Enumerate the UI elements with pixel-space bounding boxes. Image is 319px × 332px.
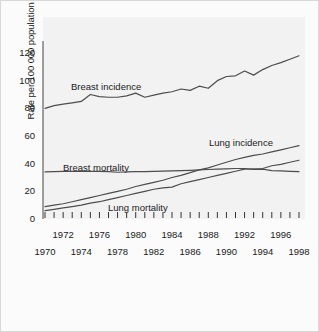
data-series-lines [45, 56, 299, 211]
x-axis-minor-ticks [45, 212, 299, 218]
series-line-breast-incidence [45, 56, 299, 109]
series-line-lung-mortality [45, 160, 299, 210]
chart-figure: Rate per 100 000 population 020406080100… [0, 0, 319, 332]
chart-plot-area [1, 1, 319, 332]
series-line-lung-incidence [45, 146, 299, 207]
